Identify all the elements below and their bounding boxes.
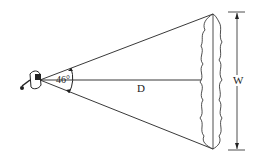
distance-label: D [137,83,145,94]
lower-sight-line [40,80,213,149]
shrub-outline [200,14,222,149]
width-arrow-top [235,13,239,19]
upper-sight-line [40,14,213,80]
diagram-canvas [0,0,253,164]
angle-label: 46° [56,75,70,85]
camera-operator-icon [20,71,41,90]
width-arrow-bottom [235,143,239,149]
width-label: W [233,75,243,86]
